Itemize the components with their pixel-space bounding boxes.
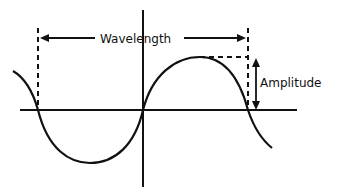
arrowhead-up-icon [252,58,260,67]
arrowhead-left-icon [40,34,49,42]
arrowhead-down-icon [252,101,260,110]
arrowhead-right-icon [237,34,246,42]
wave-diagram: Wavelength Amplitude [0,0,338,193]
amplitude-label: Amplitude [260,76,322,90]
wavelength-label: Wavelength [100,32,171,46]
